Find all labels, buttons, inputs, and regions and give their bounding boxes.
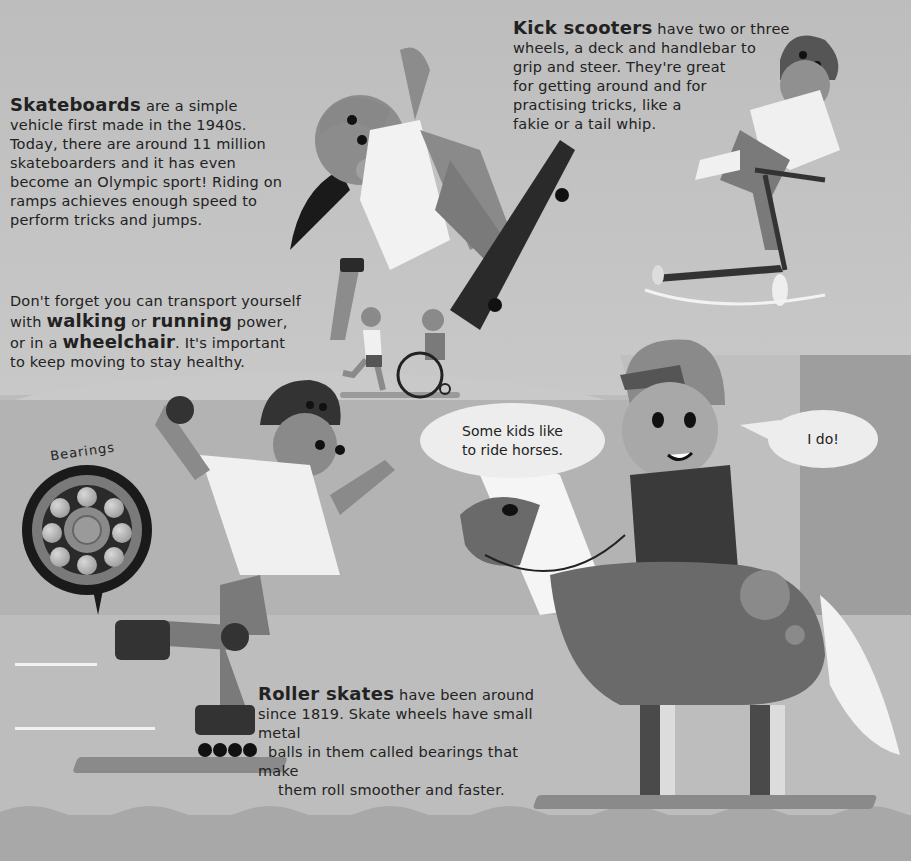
speech-bubble-right: I do! xyxy=(768,410,878,468)
roller-skates-paragraph: Roller skates have been around since 181… xyxy=(258,684,558,800)
wheelchair-emphasis: wheelchair xyxy=(62,331,175,352)
speech-left-line1: Some kids like xyxy=(462,422,563,441)
speech-bubble-right-tail xyxy=(740,420,780,450)
bearing-callout-pointer xyxy=(92,585,104,615)
kick-scooters-heading: Kick scooters xyxy=(513,17,652,38)
speech-bubble-left: Some kids like to ride horses. xyxy=(420,403,605,478)
kick-scooters-paragraph: Kick scooters have two or three wheels, … xyxy=(513,18,793,134)
bottom-band xyxy=(0,815,911,861)
speech-right-text: I do! xyxy=(807,430,839,449)
roller-skates-heading: Roller skates xyxy=(258,683,394,704)
bearing-diagram-icon xyxy=(22,465,152,595)
skateboards-paragraph: Skateboards are a simple vehicle first m… xyxy=(10,95,300,230)
speech-left-line2: to ride horses. xyxy=(462,441,563,460)
moving-paragraph: Don't forget you can transport yourself … xyxy=(10,292,320,372)
walking-emphasis: walking xyxy=(46,310,126,331)
speed-line xyxy=(15,663,97,666)
skateboards-heading: Skateboards xyxy=(10,94,141,115)
running-emphasis: running xyxy=(151,310,232,331)
